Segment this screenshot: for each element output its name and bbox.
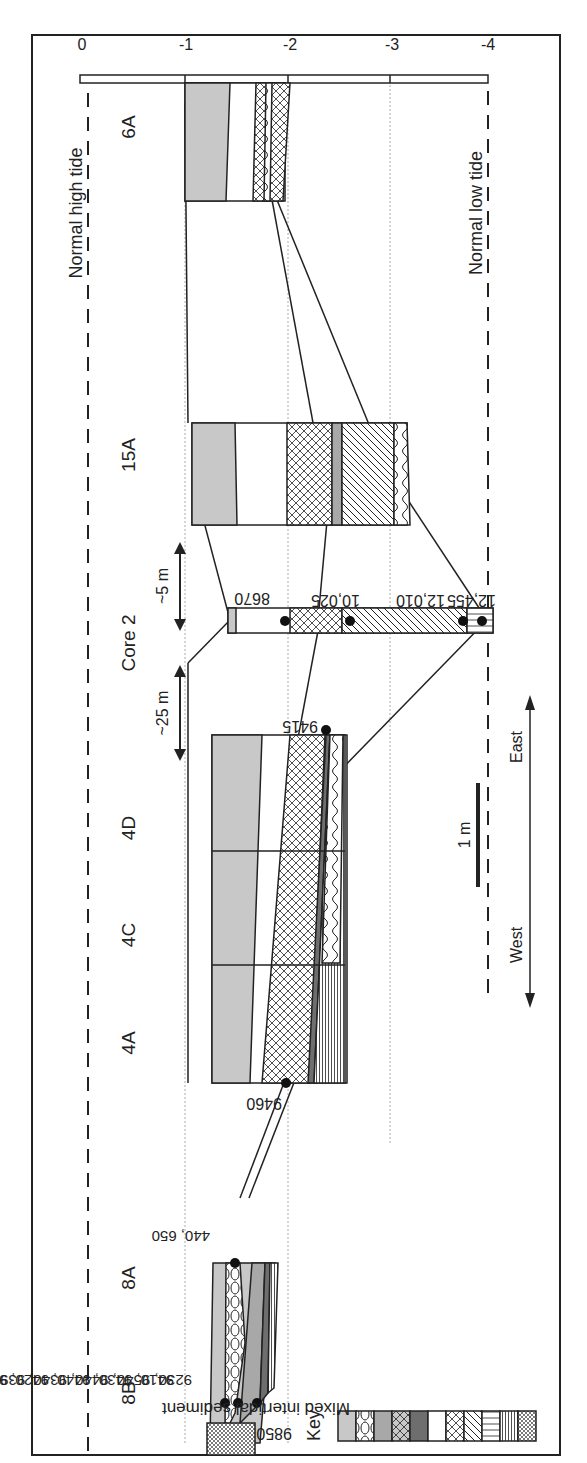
distance-arrow-25m: ~25 m [154, 665, 186, 761]
core-label-6A: 6A [118, 115, 139, 139]
svg-text:~25 m: ~25 m [154, 691, 171, 736]
axis-tick-2: -2 [283, 36, 297, 53]
core-label-4D: 4D [118, 816, 139, 840]
date-10025: 10,025 [311, 592, 360, 609]
direction-arrow: West East [508, 695, 535, 1008]
core-label-4A: 4A [118, 1031, 139, 1055]
date-8A-row2: 9230, 9540, 9440, 9340, 9395 [0, 1372, 192, 1389]
legend-item-0: Mixed intertidal sediment [162, 1399, 350, 1418]
date-9460: 9460 [246, 1095, 282, 1112]
svg-text:West: West [508, 926, 525, 963]
high-tide-label: Normal high tide [66, 147, 86, 278]
low-tide-label: Normal low tide [466, 151, 486, 275]
date-9415: 9415 [282, 718, 318, 735]
scale-bar: 1 m [456, 783, 478, 887]
cores-4A-4C-4D [212, 735, 347, 1083]
core-6A [185, 83, 290, 201]
stratigraphic-cross-section: 0 -1 -2 -3 -4 Normal high tide Normal lo… [0, 0, 587, 1463]
core-15A [192, 423, 410, 525]
distance-arrow-5m: ~5 m [154, 542, 186, 631]
depth-axis: 0 -1 -2 -3 -4 [78, 36, 496, 83]
axis-tick-0: 0 [78, 36, 87, 53]
svg-text:~5 m: ~5 m [154, 568, 171, 604]
core-label-core2: Core 2 [118, 614, 139, 671]
date-9850: 9850 [256, 1425, 292, 1442]
date-8670: 8670 [234, 590, 270, 607]
svg-text:1 m: 1 m [456, 822, 473, 849]
axis-tick-1: -1 [179, 36, 193, 53]
date-8A-row3: 440, 650 [152, 1228, 210, 1245]
svg-text:East: East [508, 730, 525, 763]
core-label-4C: 4C [118, 923, 139, 947]
axis-tick-4: -4 [481, 36, 495, 53]
core-core2 [228, 608, 493, 633]
date-12010: 12,010 [396, 592, 445, 609]
core-label-8A: 8A [118, 1266, 139, 1290]
date-12455: 12,455 [447, 592, 496, 609]
core-label-15A: 15A [118, 438, 139, 472]
axis-tick-3: -3 [385, 36, 399, 53]
